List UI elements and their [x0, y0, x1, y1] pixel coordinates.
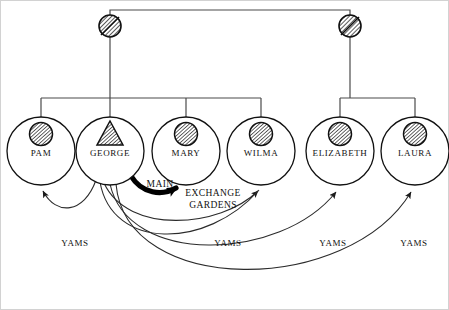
kinship-exchange-diagram: PAM GEORGE MARY WILMA ELIZABETH LAURA — [0, 0, 449, 310]
marriage-node-left[interactable] — [99, 15, 121, 37]
female-circle-icon — [175, 123, 198, 146]
marriage-node-right[interactable] — [339, 15, 361, 37]
exchange-label-exchange-gardens-line1: EXCHANGE — [185, 188, 240, 198]
female-circle-icon — [404, 123, 427, 146]
female-circle-icon — [250, 123, 273, 146]
person-label: WILMA — [244, 148, 279, 158]
exchange-label-yams-wilma: YAMS — [214, 238, 241, 248]
exchange-label-yams-pam: YAMS — [61, 238, 88, 248]
exchange-arrow-yams-laura[interactable] — [116, 184, 411, 269]
person-label: LAURA — [398, 148, 432, 158]
person-label: PAM — [31, 148, 51, 158]
exchange-label-exchange-gardens-line2: GARDENS — [189, 200, 237, 210]
person-label: GEORGE — [90, 148, 130, 158]
person-label: ELIZABETH — [313, 148, 368, 158]
marriage-top-bar — [110, 10, 350, 26]
exchange-label-yams-elizabeth: YAMS — [319, 238, 346, 248]
person-node-george[interactable]: GEORGE — [76, 117, 144, 185]
female-circle-icon — [329, 123, 352, 146]
person-node-wilma[interactable]: WILMA — [227, 117, 295, 185]
exchange-label-yams-laura: YAMS — [400, 238, 427, 248]
diagram-canvas: PAM GEORGE MARY WILMA ELIZABETH LAURA — [0, 0, 449, 310]
person-node-mary[interactable]: MARY — [152, 117, 220, 185]
person-label: MARY — [172, 148, 201, 158]
person-node-pam[interactable]: PAM — [7, 117, 75, 185]
female-circle-icon — [30, 123, 53, 146]
person-node-elizabeth[interactable]: ELIZABETH — [306, 117, 374, 185]
exchange-label-main: MAIN — [147, 179, 174, 189]
person-node-laura[interactable]: LAURA — [381, 117, 449, 185]
